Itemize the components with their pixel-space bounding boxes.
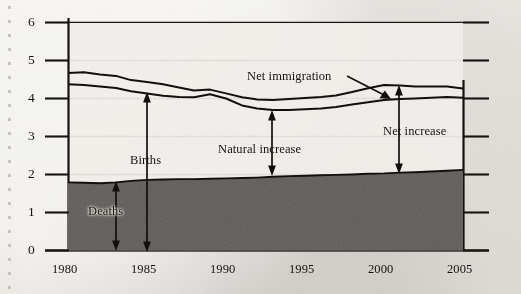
annotation-label-births: Births <box>130 153 161 168</box>
x-axis-label-1980: 1980 <box>52 262 77 277</box>
x-axis-label-1995: 1995 <box>289 262 314 277</box>
y-axis-label-2: 2 <box>28 166 35 182</box>
annotation-label-net-immigration: Net immigration <box>247 69 331 84</box>
y-axis-label-5: 5 <box>28 52 35 68</box>
y-axis-label-6: 6 <box>28 14 35 30</box>
y-tick-marks <box>45 23 69 251</box>
x-axis-label-1985: 1985 <box>131 262 156 277</box>
x-axis-label-2000: 2000 <box>368 262 393 277</box>
y-axis-label-4: 4 <box>28 90 35 106</box>
scan-edge-dot-artifacts <box>0 0 22 294</box>
y-axis-label-0: 0 <box>28 242 35 258</box>
y-axis-label-3: 3 <box>28 128 35 144</box>
x-axis-label-2005: 2005 <box>447 262 472 277</box>
right-tick-marks <box>463 23 489 251</box>
figure-canvas: 6 5 4 3 2 1 0 1980 1985 1990 1995 2000 2… <box>0 0 521 294</box>
annotation-label-deaths: Deaths <box>88 204 123 219</box>
x-axis-label-1990: 1990 <box>210 262 235 277</box>
annotation-label-natural-increase: Natural increase <box>218 142 301 157</box>
annotation-label-net-increase: Net increase <box>383 124 446 139</box>
y-axis-label-1: 1 <box>28 204 35 220</box>
